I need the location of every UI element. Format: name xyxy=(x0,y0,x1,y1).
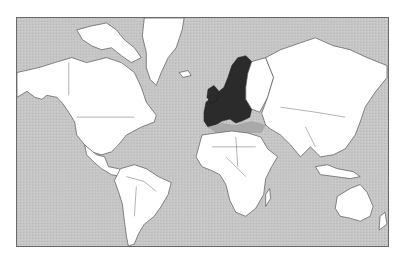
map-svg xyxy=(17,18,388,246)
world-map xyxy=(16,17,389,247)
